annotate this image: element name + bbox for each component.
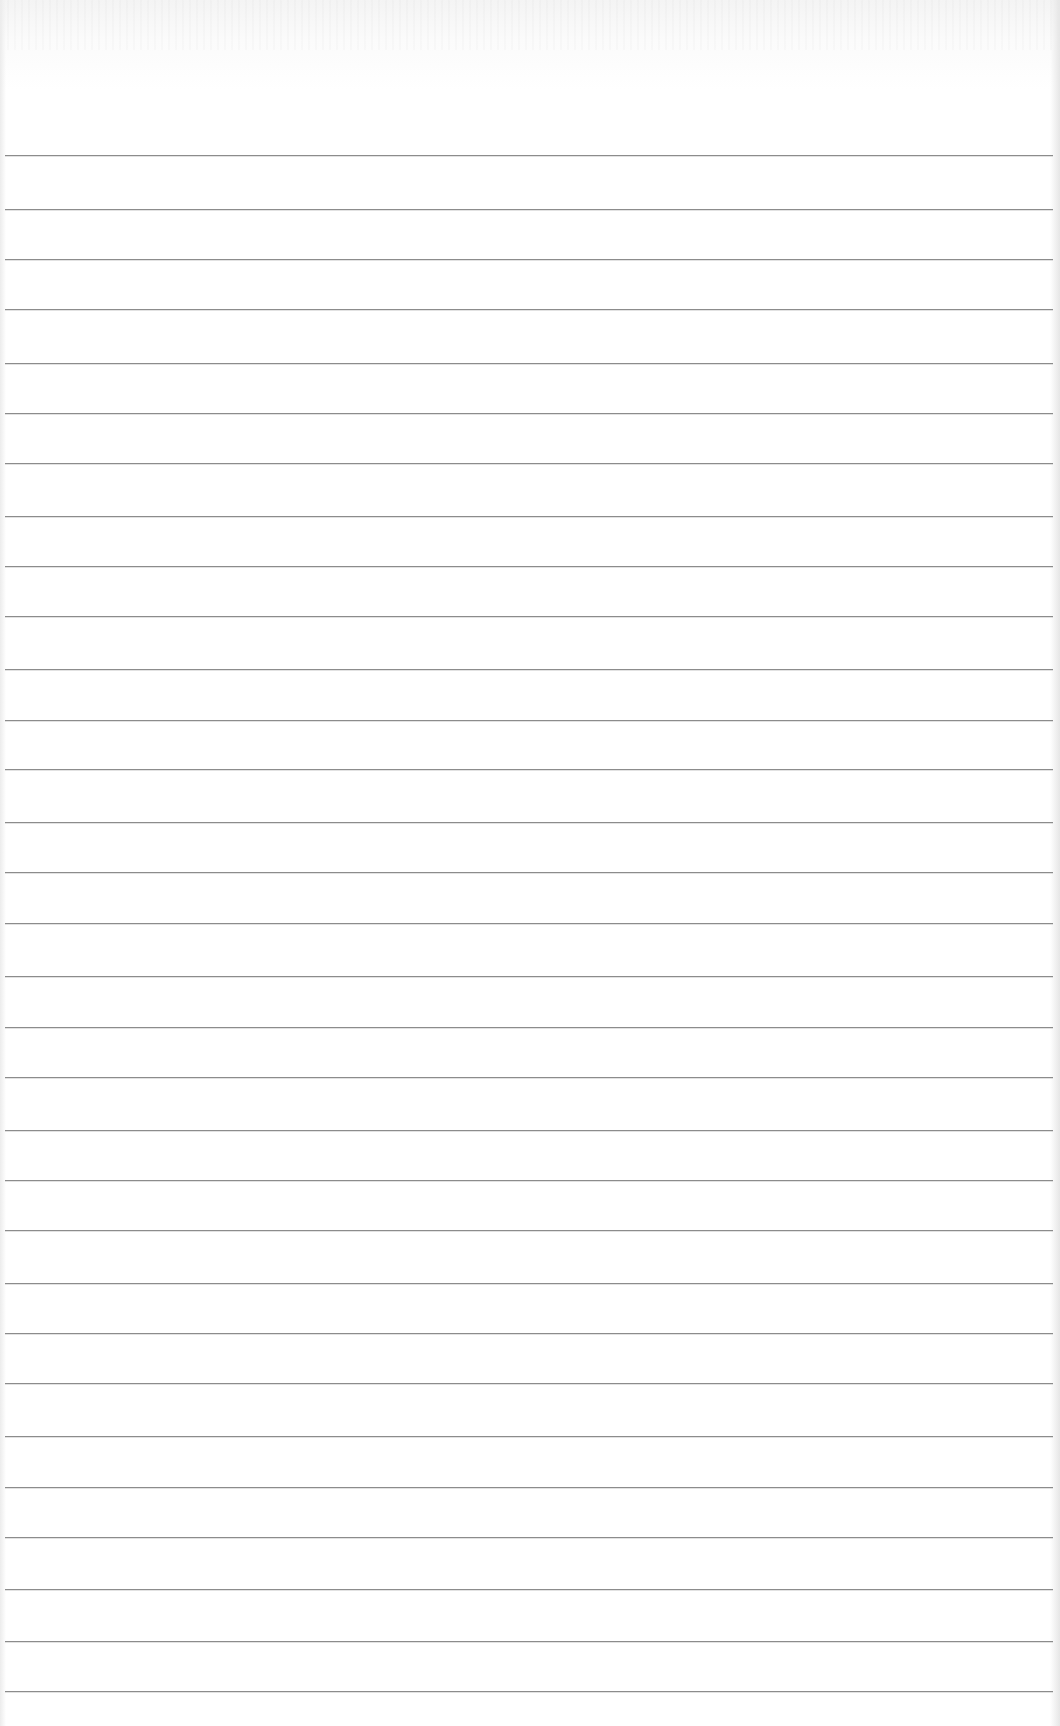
ruled-line	[5, 413, 1053, 414]
paper-top-texture	[0, 0, 1060, 50]
ruled-line	[5, 1333, 1053, 1334]
ruled-line	[5, 566, 1053, 567]
ruled-line	[5, 1589, 1053, 1590]
ruled-line	[5, 1130, 1053, 1131]
ruled-line	[5, 1383, 1053, 1384]
ruled-line	[5, 209, 1053, 210]
ruled-line	[5, 1691, 1053, 1692]
ruled-line	[5, 1027, 1053, 1028]
ruled-line	[5, 259, 1053, 260]
ruled-line	[5, 1487, 1053, 1488]
ruled-line	[5, 769, 1053, 770]
ruled-line	[5, 822, 1053, 823]
ruled-line	[5, 463, 1053, 464]
ruled-line	[5, 720, 1053, 721]
ruled-line	[5, 976, 1053, 977]
ruled-line	[5, 1283, 1053, 1284]
ruled-line	[5, 669, 1053, 670]
ruled-line	[5, 1436, 1053, 1437]
ruled-line	[5, 1180, 1053, 1181]
ruled-line	[5, 363, 1053, 364]
ruled-line	[5, 872, 1053, 873]
ruled-line	[5, 616, 1053, 617]
ruled-line	[5, 923, 1053, 924]
ruled-line	[5, 155, 1053, 156]
ruled-line	[5, 309, 1053, 310]
ruled-line	[5, 1641, 1053, 1642]
ruled-line	[5, 516, 1053, 517]
ruled-paper-sheet	[0, 0, 1060, 1726]
ruled-line	[5, 1537, 1053, 1538]
ruled-line	[5, 1230, 1053, 1231]
ruled-line	[5, 1077, 1053, 1078]
